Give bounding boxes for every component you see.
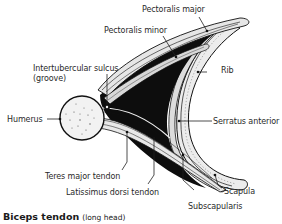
label-scapula: Scapula: [224, 187, 255, 196]
label-teres-major-tendon: Teres major tendon: [45, 172, 120, 181]
label-groove: (groove): [33, 74, 66, 83]
label-pectoralis-major: Pectoralis major: [142, 5, 205, 14]
label-rib: Rib: [221, 66, 234, 75]
label-subscapularis: Subscapularis: [188, 202, 242, 211]
label-intertubercular-sulcus: Intertubercular sulcus: [33, 64, 118, 73]
label-serratus-anterior: Serratus anterior: [213, 117, 279, 126]
caption-sub: (long head): [82, 213, 125, 222]
label-latissimus-dorsi-tendon: Latissimus dorsi tendon: [66, 188, 159, 197]
caption-bold: Biceps tendon: [3, 211, 79, 222]
label-pectoralis-minor: Pectoralis minor: [104, 26, 167, 35]
label-humerus: Humerus: [7, 115, 43, 124]
figure-caption: Biceps tendon (long head): [3, 211, 125, 222]
